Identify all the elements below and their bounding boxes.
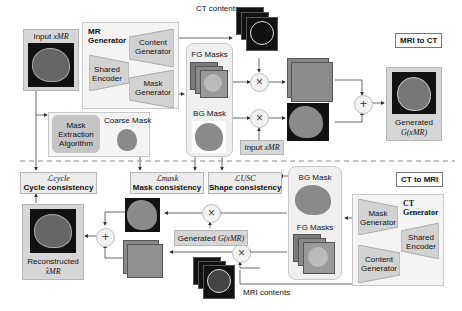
generated-g-box: Generated G(xMR) [174,230,248,246]
reconstructed-mr-image [30,209,76,253]
mri-contents-label: MRI contents [243,288,290,297]
section-label-mri-to-ct: MRI to CT [395,33,442,48]
mask-loss-label: Mask consistency [131,183,203,192]
section-label-text: MRI to CT [400,36,437,45]
cycle-consistency-loss: ℒcycle Cycle consistency [20,172,97,194]
fg-masks-label: FG Masks [187,50,232,59]
multiply-op-bottom-1: × [202,204,221,223]
input-mr-box: Input xMR [23,29,79,91]
content-generator-label: ContentGenerator [133,38,173,56]
ct-contents-label: CT contents [196,4,239,13]
bottom-bg-result-image [125,198,160,232]
bottom-shared-encoder-label: SharedEncoder [403,233,439,251]
section-label-text: CT to MRI [401,175,438,184]
mr-input-image [28,43,74,87]
input2-label: Input xMR [241,143,283,152]
multiply-op-top-2: × [250,109,269,128]
shape-loss-math: ℒUSC [209,174,281,183]
mask-extraction-label: MaskExtractionAlgorithm [52,121,100,148]
input-label: Input xMR [24,32,78,41]
reconstructed-mr-box: Reconstructed x̂MR [22,204,84,280]
bottom-generated-label: Generated G(xMR) [175,234,247,243]
bottom-content-generator-label: ContentGenerator [359,255,399,273]
input-mr-small-box: Input xMR [240,140,284,155]
bottom-masks-panel: BG Mask FG Masks [288,166,342,280]
generated-ct-box: Generated G(xMR) [386,67,442,141]
bottom-fg-masks-label: FG Masks [289,223,341,232]
mr-generator-title: MRGenerator [88,27,126,45]
bottom-mask-generator-label: MaskGenerator [359,209,397,227]
shared-encoder-label: SharedEncoder [89,65,125,83]
mask-generator-label: MaskGenerator [133,79,173,97]
add-op-bottom: + [96,228,115,247]
mr-generator-panel: MRGenerator ContentGenerator SharedEncod… [82,22,179,109]
generated-ct-image [392,72,436,114]
bg-result-image [287,103,329,141]
ct-generator-panel: CTGenerator MaskGenerator SharedEncoder … [352,194,444,286]
add-op-top: + [354,95,373,114]
coarse-mask-image [117,129,137,151]
reconstructed-math: x̂MR [23,267,83,276]
fg-bg-masks-panel: FG Masks BG Mask [186,43,233,157]
mask-loss-math: ℒmask [131,174,203,183]
bottom-bg-mask-label: BG Mask [289,173,341,182]
bottom-bg-mask-image [295,185,331,215]
cycle-loss-math: ℒcycle [21,174,96,183]
reconstructed-label: Reconstructed [23,257,83,266]
cycle-loss-label: Cycle consistency [21,183,96,192]
shape-loss-label: Shape consistency [209,183,281,192]
shape-consistency-loss: ℒUSC Shape consistency [208,172,282,194]
mask-consistency-loss: ℒmask Mask consistency [130,172,204,194]
bg-mask-image [192,121,226,153]
coarse-mask-label: Coarse Mask [104,116,151,125]
coarse-mask-panel: MaskExtractionAlgorithm Coarse Mask [48,112,150,157]
generated-label: Generated [387,118,441,127]
ct-generator-title: CTGenerator [403,199,439,217]
multiply-op-bottom-2: × [232,244,251,263]
bg-mask-label: BG Mask [187,109,232,118]
multiply-op-top-1: × [250,73,269,92]
section-label-ct-to-mri: CT to MRI [396,172,443,187]
generated-math: G(xMR) [387,128,441,137]
mask-extraction-algorithm[interactable]: MaskExtractionAlgorithm [52,115,100,153]
